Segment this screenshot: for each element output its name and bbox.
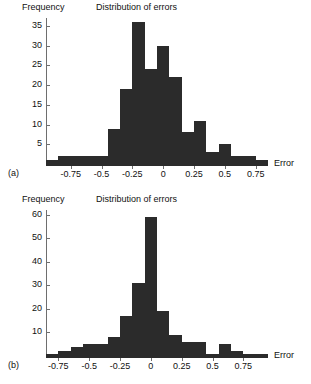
y-tick-label: 30 — [12, 279, 42, 289]
x-tick-label: 0.75 — [223, 361, 263, 371]
y-tick — [47, 332, 50, 333]
panel-a-plot-area: 5101520253035-0.75-0.5-0.2500.250.50.75E… — [46, 18, 268, 164]
y-tick — [47, 215, 50, 216]
histogram-bar — [145, 217, 157, 356]
y-tick-label: 15 — [12, 99, 42, 109]
y-tick — [47, 238, 50, 239]
histogram-bar — [58, 351, 70, 356]
histogram-bar — [132, 283, 144, 356]
histogram-bar — [83, 156, 95, 164]
histogram-bar — [157, 46, 169, 164]
panel-b-title: Distribution of errors — [96, 194, 177, 204]
y-tick-label: 25 — [12, 59, 42, 69]
histogram-bar — [194, 342, 206, 356]
y-tick-label: 20 — [12, 303, 42, 313]
histogram-bar — [231, 351, 243, 356]
y-tick — [47, 144, 50, 145]
y-axis-line — [46, 210, 47, 356]
histogram-bar — [95, 156, 107, 164]
panel-a-y-axis-label: Frequency — [22, 2, 65, 12]
y-tick — [47, 105, 50, 106]
histogram-bar — [120, 89, 132, 164]
histogram-bar — [182, 342, 194, 356]
y-tick-label: 10 — [12, 326, 42, 336]
histogram-bar — [46, 160, 58, 164]
histogram-bar — [120, 316, 132, 356]
x-axis-baseline — [46, 164, 268, 166]
histogram-bar — [243, 156, 255, 164]
y-tick-label: 30 — [12, 40, 42, 50]
panel-b-y-axis-label: Frequency — [22, 194, 65, 204]
histogram-bar — [256, 160, 268, 164]
y-tick — [47, 309, 50, 310]
histogram-bar — [95, 344, 107, 356]
x-axis-label: Error — [274, 158, 294, 168]
histogram-bar — [169, 77, 181, 164]
x-axis-label: Error — [274, 350, 294, 360]
panel-b-plot-area: 102030405060-0.75-0.5-0.2500.250.50.75Er… — [46, 210, 268, 356]
panel-a-letter: (a) — [8, 168, 19, 178]
histogram-bar — [206, 152, 218, 164]
histogram-bar — [206, 354, 218, 356]
histogram-bar — [219, 144, 231, 164]
x-axis-baseline — [46, 356, 268, 358]
y-tick — [47, 285, 50, 286]
histogram-bar — [182, 132, 194, 164]
histogram-bar — [194, 121, 206, 164]
y-tick-label: 50 — [12, 232, 42, 242]
y-tick — [47, 125, 50, 126]
x-tick-label: 0.75 — [236, 169, 276, 179]
histogram-bar — [83, 344, 95, 356]
histogram-bar — [71, 156, 83, 164]
histogram-bar — [132, 22, 144, 164]
histogram-bar — [108, 129, 120, 165]
histogram-bar — [71, 347, 83, 356]
histogram-panel-a: Frequency Distribution of errors (a) 510… — [0, 0, 311, 192]
y-axis-line — [46, 18, 47, 164]
histogram-bar — [145, 69, 157, 164]
y-tick — [47, 85, 50, 86]
y-tick — [47, 262, 50, 263]
y-tick-label: 5 — [12, 138, 42, 148]
histogram-bar — [58, 156, 70, 164]
histogram-panel-b: Frequency Distribution of errors (b) 102… — [0, 192, 311, 384]
histogram-bar — [46, 354, 58, 356]
histogram-bar — [157, 311, 169, 356]
panel-a-title: Distribution of errors — [96, 2, 177, 12]
histogram-bar — [256, 354, 268, 356]
histogram-bar — [243, 354, 255, 356]
y-tick — [47, 65, 50, 66]
histogram-bar — [169, 335, 181, 356]
y-tick-label: 35 — [12, 20, 42, 30]
y-tick-label: 40 — [12, 256, 42, 266]
histogram-bar — [108, 337, 120, 356]
y-tick-label: 10 — [12, 119, 42, 129]
y-tick — [47, 26, 50, 27]
y-tick-label: 60 — [12, 209, 42, 219]
y-tick-label: 20 — [12, 79, 42, 89]
histogram-bar — [219, 344, 231, 356]
panel-b-letter: (b) — [8, 360, 19, 370]
y-tick — [47, 46, 50, 47]
histogram-bar — [231, 156, 243, 164]
